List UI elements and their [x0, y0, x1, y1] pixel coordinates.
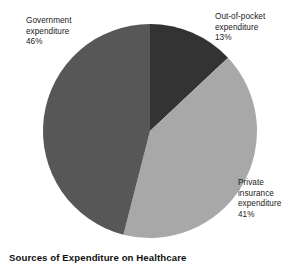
pie-label-private-insurance-value: 41% — [238, 210, 281, 221]
chart-title: Sources of Expenditure on Healthcare — [9, 252, 186, 263]
pie-label-government: Government expenditure 46% — [26, 16, 72, 48]
pie-plot-area: Government expenditure 46% Out-of-pocket… — [0, 0, 301, 246]
pie-label-government-line2: expenditure — [26, 27, 69, 36]
pie-label-private-insurance-line1: Private — [238, 178, 264, 187]
pie-label-government-line1: Government — [26, 16, 72, 25]
pie-label-government-value: 46% — [26, 37, 72, 48]
pie-chart-figure: Government expenditure 46% Out-of-pocket… — [0, 0, 301, 276]
pie-label-private-insurance-line2: insurance — [238, 189, 274, 198]
pie-label-out-of-pocket-line2: expenditure — [215, 23, 258, 32]
pie-label-out-of-pocket-value: 13% — [215, 33, 265, 44]
pie-label-out-of-pocket: Out-of-pocket expenditure 13% — [215, 12, 265, 44]
pie-label-private-insurance: Private insurance expenditure 41% — [238, 178, 281, 220]
pie-label-private-insurance-line3: expenditure — [238, 199, 281, 208]
pie-label-out-of-pocket-line1: Out-of-pocket — [215, 12, 265, 21]
